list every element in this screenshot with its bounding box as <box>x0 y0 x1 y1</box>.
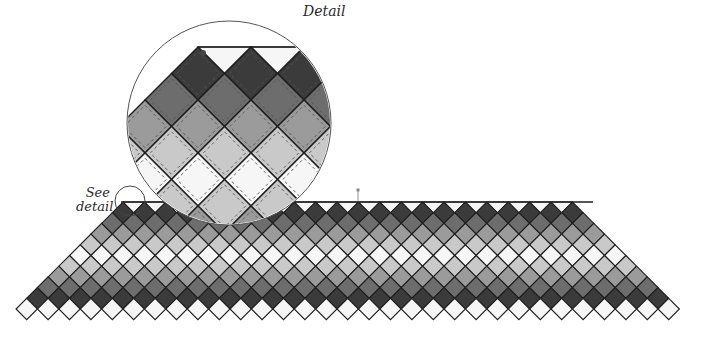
quilt-diagram <box>0 0 710 342</box>
stitch-line <box>362 132 404 174</box>
stitch-line <box>18 211 60 253</box>
see-detail-line-2: detail <box>76 200 110 214</box>
see-detail-line-1: See <box>76 186 110 200</box>
detail-block <box>331 47 384 100</box>
center-marker-icon <box>357 189 360 203</box>
see-detail-label: See detail <box>76 186 110 214</box>
detail-block <box>331 153 384 206</box>
detail-setting-triangle <box>357 47 410 74</box>
detail-block <box>13 206 66 259</box>
quilt-pattern <box>16 202 679 320</box>
detail-block <box>357 127 410 180</box>
stitch-line <box>336 52 378 94</box>
corner-knot-icon <box>200 50 206 56</box>
stitch-line <box>336 105 378 147</box>
stitch-line <box>336 158 378 200</box>
detail-block <box>357 74 410 127</box>
detail-block <box>331 100 384 153</box>
stitch-line <box>362 79 404 121</box>
detail-label: Detail <box>303 4 345 18</box>
